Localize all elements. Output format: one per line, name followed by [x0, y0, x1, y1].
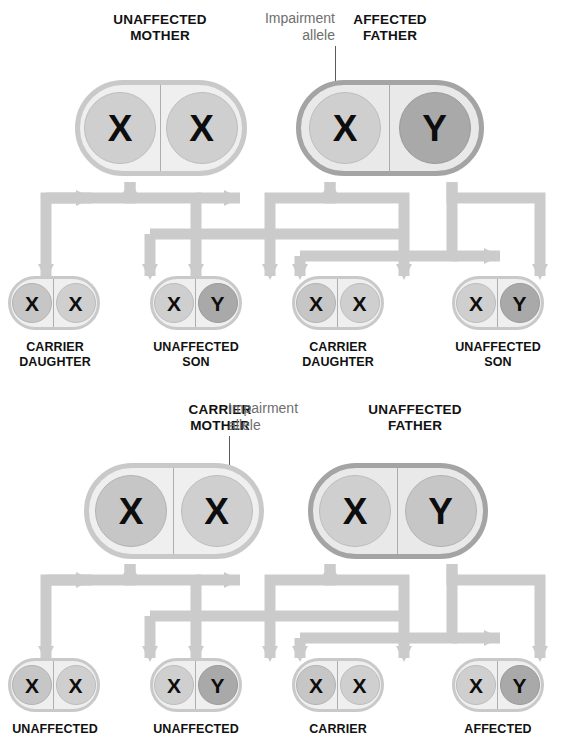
allele-symbol: X: [189, 110, 214, 147]
allele-symbol: X: [167, 675, 181, 696]
allele-slot-1: X: [89, 468, 174, 554]
allele-slot-2: X: [338, 279, 381, 327]
allele-circle: X: [296, 283, 336, 323]
parent-label-mother: UNAFFECTED MOTHER: [75, 12, 245, 44]
allele-symbol: X: [167, 293, 181, 314]
inheritance-connectors: [0, 558, 574, 673]
parent-label-father: AFFECTED FATHER: [305, 12, 475, 44]
allele-circle: X: [340, 283, 380, 323]
allele-symbol: X: [25, 293, 39, 314]
allele-slot-2: Y: [398, 468, 483, 554]
child-label: UNAFFECTED SON: [443, 340, 553, 370]
allele-symbol: X: [469, 675, 483, 696]
chromosome-pair-child[interactable]: X X: [292, 658, 384, 712]
inheritance-diagram: UNAFFECTED MOTHER Impairment allele AFFE…: [0, 0, 574, 754]
allele-slot-2: Y: [390, 85, 479, 171]
allele-symbol: X: [25, 675, 39, 696]
allele-slot-2: Y: [196, 279, 239, 327]
allele-slot-1: X: [11, 661, 54, 709]
allele-symbol: X: [309, 675, 323, 696]
allele-symbol: Y: [210, 675, 224, 696]
child-label: AFFECTED: [443, 722, 553, 737]
chromosome-pair-child[interactable]: X X: [8, 658, 100, 712]
child-label: CARRIER: [283, 722, 393, 737]
allele-circle: X: [56, 283, 96, 323]
allele-circle: Y: [405, 475, 477, 547]
allele-symbol: X: [119, 493, 144, 530]
allele-circle: X: [12, 665, 52, 705]
allele-symbol: Y: [512, 675, 526, 696]
chromosome-pair-child[interactable]: X X: [8, 276, 100, 330]
allele-slot-1: X: [153, 279, 196, 327]
chromosome-pair-child[interactable]: X Y: [452, 276, 544, 330]
allele-symbol: X: [352, 675, 366, 696]
allele-circle: X: [154, 665, 194, 705]
child-label: UNAFFECTED SON: [141, 340, 251, 370]
child-label: CARRIER DAUGHTER: [283, 340, 393, 370]
chromosome-pair-child[interactable]: X Y: [452, 658, 544, 712]
allele-symbol: X: [333, 110, 358, 147]
allele-circle: Y: [500, 665, 540, 705]
allele-circle: X: [456, 665, 496, 705]
allele-circle: X: [154, 283, 194, 323]
allele-slot-2: X: [54, 661, 97, 709]
allele-circle: X: [340, 665, 380, 705]
allele-slot-1: X: [301, 85, 390, 171]
chromosome-pair-child[interactable]: X X: [292, 276, 384, 330]
allele-slot-1: X: [313, 468, 398, 554]
allele-circle: X: [12, 283, 52, 323]
allele-slot-1: X: [80, 85, 161, 171]
allele-symbol: Y: [428, 493, 453, 530]
allele-slot-1: X: [455, 661, 498, 709]
allele-slot-2: Y: [196, 661, 239, 709]
allele-circle: X: [95, 475, 167, 547]
allele-circle: Y: [198, 283, 238, 323]
allele-circle: X: [56, 665, 96, 705]
chromosome-pair-mother[interactable]: X X: [84, 463, 264, 559]
allele-slot-2: Y: [498, 279, 541, 327]
chromosome-pair-father[interactable]: X Y: [296, 80, 484, 176]
allele-symbol: X: [343, 493, 368, 530]
allele-symbol: Y: [512, 293, 526, 314]
allele-circle: Y: [500, 283, 540, 323]
panel-carrier-mother: CARRIER MOTHER Impairment allele UNAFFEC…: [0, 390, 574, 754]
allele-symbol: X: [108, 110, 133, 147]
chromosome-pair-child[interactable]: X Y: [150, 276, 242, 330]
child-label: CARRIER DAUGHTER: [0, 340, 110, 370]
chromosome-pair-father[interactable]: X Y: [308, 463, 488, 559]
allele-circle: X: [181, 475, 253, 547]
allele-circle: X: [309, 92, 381, 164]
inheritance-connectors: [0, 176, 574, 291]
allele-slot-2: X: [174, 468, 259, 554]
allele-slot-1: X: [455, 279, 498, 327]
allele-symbol: X: [352, 293, 366, 314]
allele-circle: Y: [399, 92, 471, 164]
allele-slot-2: X: [161, 85, 242, 171]
allele-symbol: X: [309, 293, 323, 314]
allele-slot-1: X: [295, 661, 338, 709]
allele-slot-2: X: [338, 661, 381, 709]
chromosome-pair-child[interactable]: X Y: [150, 658, 242, 712]
child-label: UNAFFECTED: [141, 722, 251, 737]
allele-circle: Y: [198, 665, 238, 705]
allele-symbol: X: [469, 293, 483, 314]
allele-slot-2: X: [54, 279, 97, 327]
allele-circle: X: [456, 283, 496, 323]
allele-slot-1: X: [295, 279, 338, 327]
allele-symbol: X: [68, 293, 82, 314]
allele-slot-1: X: [153, 661, 196, 709]
allele-symbol: X: [68, 675, 82, 696]
allele-slot-2: Y: [498, 661, 541, 709]
parent-label-father: UNAFFECTED FATHER: [330, 402, 500, 434]
allele-circle: X: [296, 665, 336, 705]
chromosome-pair-mother[interactable]: X X: [75, 80, 247, 176]
allele-circle: X: [166, 92, 238, 164]
allele-symbol: Y: [422, 110, 447, 147]
allele-circle: X: [319, 475, 391, 547]
allele-slot-1: X: [11, 279, 54, 327]
allele-symbol: X: [204, 493, 229, 530]
allele-circle: X: [84, 92, 156, 164]
child-label: UNAFFECTED: [0, 722, 110, 737]
panel-affected-father: UNAFFECTED MOTHER Impairment allele AFFE…: [0, 0, 574, 390]
allele-symbol: Y: [210, 293, 224, 314]
